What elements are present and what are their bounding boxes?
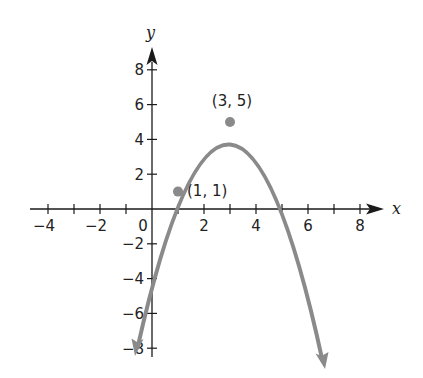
y-tick-label: 2 bbox=[134, 166, 144, 184]
origin-label: 0 bbox=[138, 217, 148, 235]
point-1-1 bbox=[173, 187, 183, 197]
parabola-chart: −4 −2 0 2 4 6 8 x 8 6 4 2 −2 −4 −6 −8 y bbox=[0, 0, 423, 378]
y-tick-label: −4 bbox=[122, 270, 144, 288]
x-axis: −4 −2 0 2 4 6 8 x bbox=[30, 199, 401, 235]
x-axis-label: x bbox=[392, 199, 401, 218]
y-tick-label: −2 bbox=[122, 235, 144, 253]
point-1-1-label: (1, 1) bbox=[187, 182, 227, 200]
x-tick-label: −2 bbox=[85, 217, 107, 235]
y-tick-label: 8 bbox=[134, 61, 144, 79]
x-tick-label: 8 bbox=[355, 217, 365, 235]
y-axis-label: y bbox=[145, 23, 156, 42]
y-tick-label: 6 bbox=[134, 96, 144, 114]
x-tick-label: 6 bbox=[303, 217, 313, 235]
x-tick-label: −4 bbox=[33, 217, 55, 235]
y-tick-label: −6 bbox=[122, 305, 144, 323]
y-axis: 8 6 4 2 −2 −4 −6 −8 y bbox=[122, 23, 158, 358]
y-tick-label: 4 bbox=[134, 131, 144, 149]
x-tick-label: 2 bbox=[199, 217, 209, 235]
vertex-point-3-5 bbox=[225, 117, 235, 127]
parabola-curve bbox=[132, 145, 329, 369]
x-tick-label: 4 bbox=[251, 217, 261, 235]
vertex-label: (3, 5) bbox=[212, 92, 252, 110]
